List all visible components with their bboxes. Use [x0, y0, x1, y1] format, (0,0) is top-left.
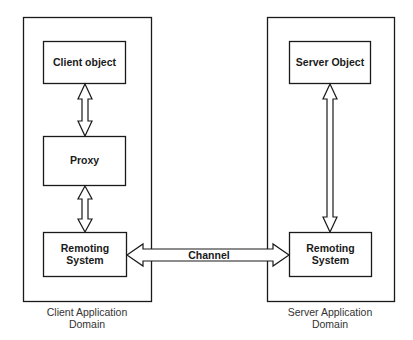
proxy-label: Proxy [70, 154, 99, 166]
client-domain-label-line1: Client Application [47, 306, 128, 318]
client-application-domain: Client object Proxy Remoting System Clie… [24, 18, 152, 331]
server-domain-label-line1: Server Application [288, 306, 373, 318]
client-remoting-system-node: Remoting System [44, 233, 127, 277]
remoting-architecture-diagram: Client object Proxy Remoting System Clie… [0, 0, 413, 340]
client-object-label: Client object [53, 56, 117, 68]
proxy-node: Proxy [44, 137, 126, 186]
client-domain-label-line2: Domain [69, 318, 105, 330]
channel-label: Channel [188, 249, 230, 261]
client-remoting-label-line1: Remoting [61, 242, 109, 254]
client-remoting-label-line2: System [66, 254, 103, 266]
server-object-node: Server Object [290, 42, 371, 84]
client-object-node: Client object [44, 42, 126, 84]
server-remoting-label-line2: System [312, 254, 349, 266]
server-remoting-label-line1: Remoting [306, 242, 354, 254]
server-domain-label-line2: Domain [312, 318, 348, 330]
server-remoting-system-node: Remoting System [290, 233, 372, 277]
server-application-domain: Server Object Remoting System Server App… [268, 18, 395, 331]
server-object-label: Server Object [296, 56, 365, 68]
